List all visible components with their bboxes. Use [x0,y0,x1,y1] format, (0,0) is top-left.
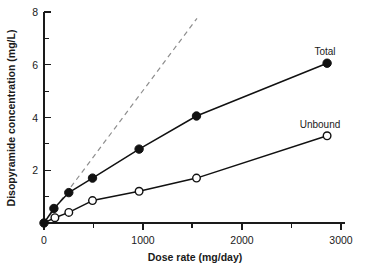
total-series-markers [40,59,332,227]
unbound-series-line [44,136,327,223]
unbound-point-3 [89,197,97,205]
total-point-4 [135,145,143,153]
y-tick-label-8: 8 [32,6,38,18]
y-axis-title: Disopyramide concentration (mg/L) [5,30,17,207]
total-point-6 [323,59,331,67]
unbound-point-1 [51,214,59,222]
y-tick-label-6: 6 [32,59,38,71]
total-point-3 [88,174,96,182]
x-axis-title: Dose rate (mg/day) [148,251,243,263]
total-point-5 [192,112,200,120]
y-axis-tick-labels: 8 6 4 2 [32,6,38,176]
x-axis-ticks [44,223,341,230]
y-tick-label-2: 2 [32,164,38,176]
total-series-line [44,63,327,223]
disopyramide-dose-response-plot: 8 6 4 2 0 1000 2000 3000 Dose rate (mg/d… [0,0,368,268]
total-point-2 [65,188,73,196]
unbound-series-label: Unbound [300,119,341,130]
y-axis-ticks [44,12,51,197]
total-point-1 [50,204,58,212]
chart-figure: 8 6 4 2 0 1000 2000 3000 Dose rate (mg/d… [0,0,368,268]
x-tick-label-3000: 3000 [329,234,353,246]
total-point-0 [40,219,48,227]
x-tick-label-2000: 2000 [230,234,254,246]
x-axis-tick-labels: 0 1000 2000 3000 [41,234,353,246]
unbound-point-4 [135,188,143,196]
total-series-label: Total [314,46,335,57]
unbound-point-5 [193,174,201,182]
x-tick-label-0: 0 [41,234,47,246]
y-tick-label-4: 4 [32,112,38,124]
x-tick-label-1000: 1000 [131,234,155,246]
unbound-point-2 [65,209,73,217]
unbound-point-6 [323,132,331,140]
